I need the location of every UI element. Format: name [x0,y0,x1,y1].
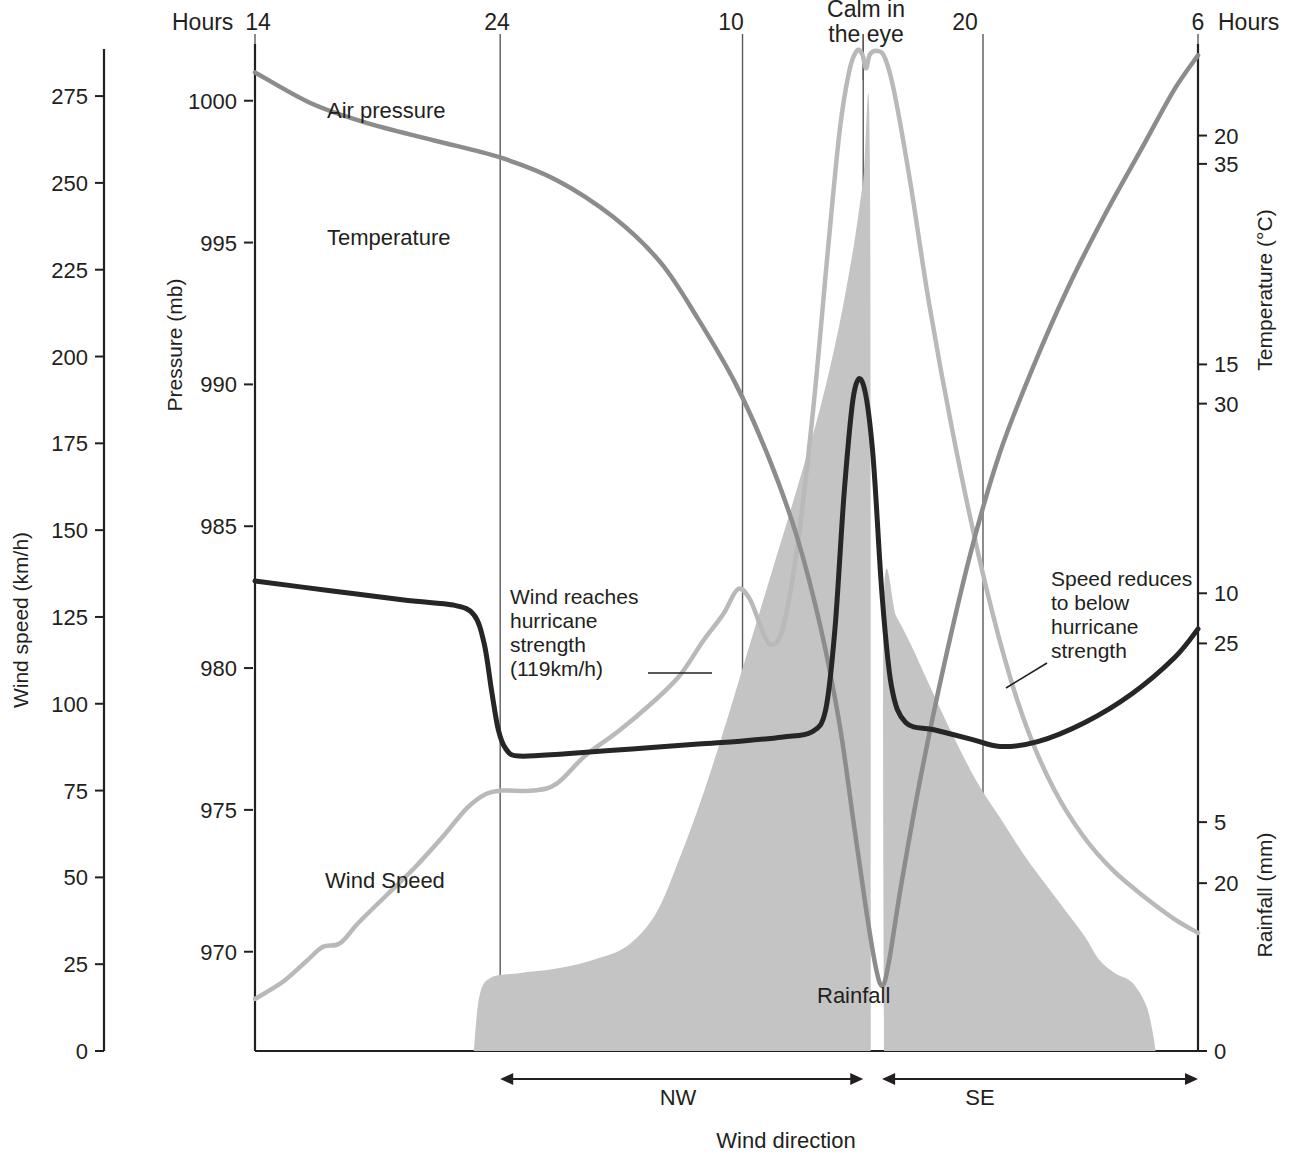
wind-speed-tick-label: 175 [51,431,88,456]
wind-speed-tick-label: 150 [51,518,88,543]
hurricane-strength-annotation-line2: hurricane [510,609,598,632]
series-group [255,50,1198,1051]
rainfall-tick-label: 10 [1214,581,1238,606]
chart-canvas: 0255075100125150175200225250275970975980… [0,0,1292,1169]
arrow-head-right [850,1073,863,1085]
temperature-series-label: Temperature [327,225,451,250]
wind-speed-tick-label: 200 [51,345,88,370]
wind-speed-tick-label: 100 [51,692,88,717]
wind-speed-tick-label: 0 [76,1039,88,1064]
wind-direction-se-label: SE [965,1085,994,1110]
speed-reduces-annotation-line4: strength [1051,639,1127,662]
rainfall-tick-label: 5 [1214,810,1226,835]
x-tick-label-20: 20 [952,9,978,35]
pressure-tick-label: 970 [200,940,237,965]
wind-speed-tick-label: 275 [51,84,88,109]
rainfall-series-label: Rainfall [817,983,890,1008]
rainfall-axis-title: Rainfall (mm) [1253,833,1276,958]
wind-speed-tick-label: 125 [51,605,88,630]
x-tick-label-10: 10 [718,9,744,35]
wind-speed-tick-label: 250 [51,171,88,196]
temperature-tick-label: 25 [1214,631,1238,656]
temperature-axis-title: Temperature (°C) [1253,209,1276,370]
pressure-tick-label: 990 [200,372,237,397]
arrow-head-left [500,1073,513,1085]
pressure-tick-label: 985 [200,514,237,539]
hurricane-strength-annotation-line3: strength [510,633,586,656]
speed-reduces-annotation-line3: hurricane [1051,615,1139,638]
x-tick-label-6: 6 [1192,9,1205,35]
rainfall-tick-label: 15 [1214,352,1238,377]
arrow-head-left [882,1073,895,1085]
wind-direction-caption: Wind direction [716,1128,855,1153]
speed-reduces-leader-line [1006,663,1047,688]
pressure-tick-label: 1000 [188,89,237,114]
wind-speed-series-label: Wind Speed [325,868,445,893]
pressure-axis-title: Pressure (mb) [163,278,186,411]
rainfall-area-segment-1 [474,93,871,1051]
arrow-head-right [1185,1073,1198,1085]
speed-reduces-annotation-line2: to below [1051,591,1130,614]
hours-label-left: Hours [172,9,233,35]
pressure-tick-label: 995 [200,231,237,256]
calm-in-eye-label-line1: Calm in [827,0,905,22]
air-pressure-series-label: Air pressure [327,98,446,123]
rainfall-tick-label: 0 [1214,1039,1226,1064]
calm-in-eye-label-line2: the eye [828,21,903,47]
temperature-tick-label: 20 [1214,871,1238,896]
x-tick-label-14: 14 [245,9,271,35]
pressure-tick-label: 975 [200,798,237,823]
x-tick-label-24: 24 [484,9,510,35]
wind-direction-nw-label: NW [660,1085,697,1110]
hours-label-right: Hours [1218,9,1279,35]
wind-speed-tick-label: 50 [64,865,88,890]
wind-speed-tick-label: 225 [51,258,88,283]
temperature-tick-label: 30 [1214,392,1238,417]
speed-reduces-annotation-line1: Speed reduces [1051,567,1192,590]
wind-direction-group [500,1073,1198,1085]
wind-speed-tick-label: 75 [64,779,88,804]
hurricane-strength-annotation-line1: Wind reaches [510,585,638,608]
pressure-tick-label: 980 [200,656,237,681]
hurricane-weather-chart: 0255075100125150175200225250275970975980… [0,0,1292,1169]
wind-speed-tick-label: 25 [64,952,88,977]
temperature-tick-label: 35 [1214,152,1238,177]
wind-speed-axis-title: Wind speed (km/h) [9,532,32,708]
rainfall-tick-label: 20 [1214,124,1238,149]
hurricane-strength-annotation-line4: (119km/h) [510,657,603,680]
